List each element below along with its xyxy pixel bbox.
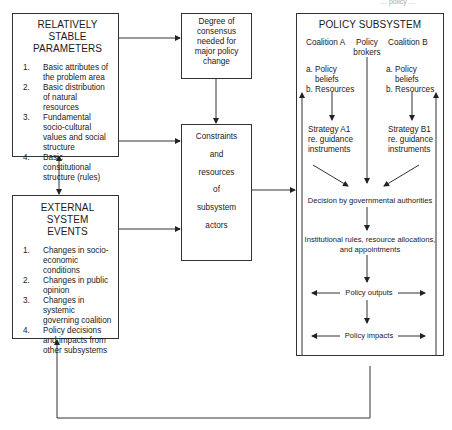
policy-brokers: Policy brokers: [350, 38, 384, 58]
title-line-1: RELATIVELY STABLE: [23, 19, 112, 43]
institutional-line: and appointments: [300, 245, 440, 255]
running-header: … policy …: [380, 0, 452, 6]
item-number: 4.: [23, 153, 43, 183]
stable-parameters-title: RELATIVELY STABLE PARAMETERS: [23, 19, 112, 55]
title-line-2: EVENTS: [23, 226, 112, 238]
title-line-2: PARAMETERS: [23, 43, 112, 55]
item-text: Changes in public opinion: [43, 276, 112, 296]
beliefs-line: beliefs: [386, 75, 434, 85]
stable-parameters-box: RELATIVELY STABLE PARAMETERS 1.Basic att…: [12, 13, 119, 157]
item-text: Policy decisions and impacts from other …: [43, 326, 112, 356]
item-number: 1.: [23, 63, 43, 83]
list-item: 4.Basic constitutional structure (rules): [23, 153, 112, 183]
decision-label: Decision by governmental authorities: [300, 196, 440, 206]
policy-outputs-label: Policy outputs: [340, 288, 398, 298]
item-text: Changes in socio-economic conditions: [43, 246, 112, 276]
consensus-box: Degree of consensus needed for major pol…: [181, 13, 252, 79]
policy-subsystem-title: POLICY SUBSYSTEM: [296, 19, 444, 31]
external-events-box: EXTERNAL SYSTEM EVENTS 1.Changes in soci…: [12, 195, 119, 339]
list-item: 3.Fundamental socio-cultural values and …: [23, 113, 112, 153]
constraints-line: actors: [182, 221, 251, 239]
external-events-title: EXTERNAL SYSTEM EVENTS: [23, 202, 112, 238]
item-number: 4.: [23, 326, 43, 356]
item-text: Basic distribution of natural resources: [43, 83, 112, 113]
strategy-line: re. guidance: [308, 135, 353, 145]
item-number: 3.: [23, 296, 43, 326]
beliefs-line: a. Policy: [386, 65, 434, 75]
constraints-line: Constraints: [182, 132, 251, 150]
strategy-line: Strategy A1: [308, 125, 353, 135]
consensus-line: consensus: [182, 27, 251, 37]
external-events-list: 1.Changes in socio-economic conditions 2…: [23, 246, 112, 356]
list-item: 3.Changes in systemic governing coalitio…: [23, 296, 112, 326]
list-item: 1.Changes in socio-economic conditions: [23, 246, 112, 276]
beliefs-line: beliefs: [306, 75, 354, 85]
coalition-b-label: Coalition B: [388, 38, 428, 48]
title-line-1: EXTERNAL SYSTEM: [23, 202, 112, 226]
item-number: 1.: [23, 246, 43, 276]
coalition-a-label: Coalition A: [306, 38, 345, 48]
coalition-a-beliefs: a. Policy beliefs b. Resources: [306, 65, 354, 95]
institutional-label: Institutional rules, resource allocation…: [300, 235, 440, 255]
strategy-line: re. guidance: [388, 135, 433, 145]
consensus-line: Degree of: [182, 17, 251, 27]
item-number: 2.: [23, 276, 43, 296]
stable-parameters-list: 1.Basic attributes of the problem area 2…: [23, 63, 112, 183]
list-item: 2.Basic distribution of natural resource…: [23, 83, 112, 113]
constraints-line: resources: [182, 168, 251, 186]
item-text: Basic constitutional structure (rules): [43, 153, 112, 183]
item-text: Fundamental socio-cultural values and so…: [43, 113, 112, 153]
brokers-line: brokers: [350, 48, 384, 58]
consensus-line: major policy: [182, 47, 251, 57]
institutional-line: Institutional rules, resource allocation…: [300, 235, 440, 245]
beliefs-line: a. Policy: [306, 65, 354, 75]
item-text: Changes in systemic governing coalition: [43, 296, 112, 326]
consensus-line: needed for: [182, 37, 251, 47]
brokers-line: Policy: [350, 38, 384, 48]
strategy-b1: Strategy B1 re. guidance instruments: [388, 125, 433, 155]
strategy-line: Strategy B1: [388, 125, 433, 135]
strategy-line: instruments: [308, 145, 353, 155]
list-item: 1.Basic attributes of the problem area: [23, 63, 112, 83]
resources-line: b. Resources: [306, 85, 354, 95]
consensus-line: change: [182, 57, 251, 67]
constraints-box: Constraints and resources of subsystem a…: [181, 124, 252, 261]
constraints-line: subsystem: [182, 203, 251, 221]
resources-line: b. Resources: [386, 85, 434, 95]
constraints-line: and: [182, 150, 251, 168]
list-item: 2.Changes in public opinion: [23, 276, 112, 296]
list-item: 4.Policy decisions and impacts from othe…: [23, 326, 112, 356]
item-text: Basic attributes of the problem area: [43, 63, 112, 83]
coalition-b-beliefs: a. Policy beliefs b. Resources: [386, 65, 434, 95]
strategy-a1: Strategy A1 re. guidance instruments: [308, 125, 353, 155]
strategy-line: instruments: [388, 145, 433, 155]
item-number: 3.: [23, 113, 43, 153]
policy-impacts-label: Policy impacts: [340, 331, 398, 341]
constraints-line: of: [182, 185, 251, 203]
item-number: 2.: [23, 83, 43, 113]
